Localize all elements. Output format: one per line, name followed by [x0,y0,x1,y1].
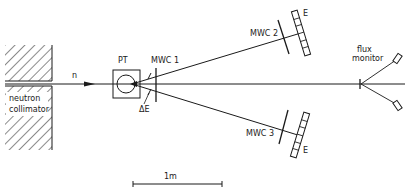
delta-e-label: ΔE [139,105,150,114]
target-label: PT [118,56,128,65]
neutron-collimator: neutron collimator [5,45,52,150]
mwc1-detector: MWC 1 ΔE [139,56,179,114]
flux-label-line2: monitor [352,54,384,63]
flux-monitor: flux monitor [352,45,402,111]
arrow-head-icon [84,82,95,87]
mwc3-label: MWC 3 [246,129,274,138]
flux-counter-lower [393,100,402,110]
e-label-lower: E [303,146,308,155]
mwc3-detector: MWC 3 E [246,110,310,158]
experimental-setup-diagram: neutron collimator n PT MWC 1 ΔE MWC 2 [0,0,413,193]
collimator-label-line2: collimator [9,105,50,114]
e-label-upper: E [303,9,308,18]
target-pt: PT [113,56,140,98]
scale-bar: 1m [133,172,222,187]
mwc2-label: MWC 2 [250,29,278,38]
mwc2-detector: MWC 2 E [250,9,311,56]
flux-label-line1: flux [357,45,372,54]
neutron-label: n [72,71,77,80]
mwc3-plane [279,110,288,144]
flux-counter-upper [393,53,402,63]
mwc1-label: MWC 1 [151,56,179,65]
scale-label: 1m [164,172,177,181]
collimator-top-block [5,45,52,81]
ray-lower [132,84,301,136]
collimator-label-line1: neutron [9,94,40,103]
